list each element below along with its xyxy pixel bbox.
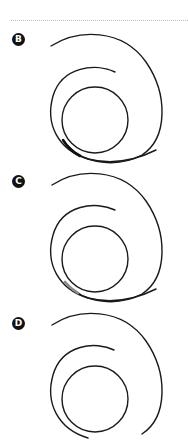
panel-d: D: [0, 277, 188, 417]
panel-b: B: [0, 0, 188, 140]
outer-curve: [52, 313, 162, 434]
spiral-diagram: [0, 277, 188, 443]
panel-c: C: [0, 139, 188, 279]
inner-circle: [62, 366, 128, 432]
middle-curve: [51, 346, 114, 438]
